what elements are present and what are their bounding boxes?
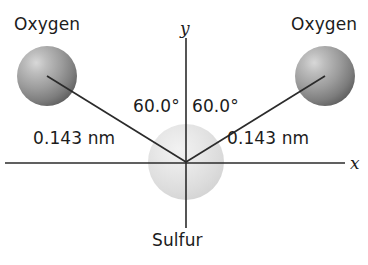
angle-right-label: 60.0° (192, 98, 239, 115)
angle-left-label: 60.0° (133, 98, 180, 115)
bond-right-length-label: 0.143 nm (227, 130, 309, 147)
y-axis-label: y (180, 20, 190, 37)
oxygen-right-label: Oxygen (291, 16, 357, 33)
bond-left-length-label: 0.143 nm (33, 130, 115, 147)
x-axis-label: x (350, 155, 360, 172)
sulfur-label: Sulfur (152, 232, 203, 249)
bond-right-line (186, 76, 325, 162)
so2-molecule-figure: Oxygen Oxygen Sulfur 60.0° 60.0° 0.143 n… (0, 0, 368, 265)
bond-left-line (47, 76, 186, 162)
oxygen-left-label: Oxygen (14, 16, 80, 33)
